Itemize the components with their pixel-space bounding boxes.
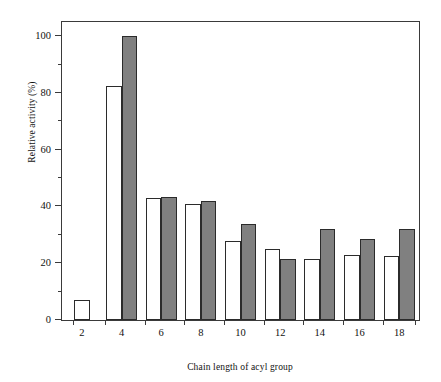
y-axis-minor-tick	[58, 291, 62, 292]
bar-open-10	[225, 241, 241, 320]
x-axis-tick	[105, 320, 106, 325]
x-axis-title: Chain length of acyl group	[60, 362, 420, 372]
bar-open-8	[185, 204, 201, 320]
y-axis-tick: 20	[55, 262, 62, 263]
y-axis-minor-tick	[58, 120, 62, 121]
bar-open-12	[265, 249, 281, 320]
y-axis-tick: 60	[55, 149, 62, 150]
y-axis-tick-label: 60	[41, 143, 52, 156]
y-axis-title: Relative activity (%)	[27, 42, 37, 202]
x-axis-tick-label: 2	[79, 327, 84, 338]
bar-filled-6	[161, 197, 177, 320]
x-axis-tick-label: 12	[275, 327, 286, 338]
x-axis-tick-label: 10	[235, 327, 246, 338]
bar-filled-4	[122, 36, 138, 320]
y-axis-tick-label: 0	[46, 313, 51, 326]
x-axis-tick-label: 14	[315, 327, 326, 338]
y-axis-tick-label: 100	[35, 29, 51, 42]
x-axis-tick	[184, 320, 185, 325]
x-axis-tick	[415, 320, 416, 325]
bars-container	[62, 22, 419, 320]
bar-open-14	[304, 259, 320, 320]
y-axis-tick: 0	[55, 319, 62, 320]
x-axis-tick	[224, 320, 225, 325]
x-axis-tick-label: 8	[198, 327, 203, 338]
y-axis-tick: 100	[55, 35, 62, 36]
x-axis-tick	[264, 320, 265, 325]
y-axis-tick: 40	[55, 205, 62, 206]
bar-open-4	[106, 86, 122, 320]
bar-open-16	[344, 255, 360, 320]
x-axis-tick	[303, 320, 304, 325]
x-axis-tick-label: 4	[119, 327, 124, 338]
y-axis-tick-label: 40	[41, 199, 52, 212]
bar-filled-18	[399, 229, 415, 320]
x-axis-tick	[73, 320, 74, 325]
x-axis-tick	[343, 320, 344, 325]
bar-open-2	[74, 300, 90, 320]
bar-filled-8	[201, 201, 217, 320]
bar-open-18	[384, 256, 400, 320]
y-axis-minor-tick	[58, 177, 62, 178]
bar-filled-12	[280, 259, 296, 320]
x-axis-tick-label: 18	[394, 327, 405, 338]
y-axis-minor-tick	[58, 234, 62, 235]
bar-open-6	[146, 198, 162, 320]
x-axis-tick	[145, 320, 146, 325]
bar-chart-figure: Relative activity (%) 020406080100246810…	[0, 0, 441, 382]
x-axis-tick	[383, 320, 384, 325]
x-axis-tick-label: 6	[159, 327, 164, 338]
y-axis-tick: 80	[55, 92, 62, 93]
x-axis-tick-label: 16	[354, 327, 365, 338]
y-axis-minor-tick	[58, 64, 62, 65]
bar-filled-10	[241, 224, 257, 320]
y-axis-tick-label: 80	[41, 86, 52, 99]
plot-area: 02040608010024681012141618	[61, 21, 420, 321]
bar-filled-16	[360, 239, 376, 320]
y-axis-tick-label: 20	[41, 256, 52, 269]
bar-filled-14	[320, 229, 336, 320]
